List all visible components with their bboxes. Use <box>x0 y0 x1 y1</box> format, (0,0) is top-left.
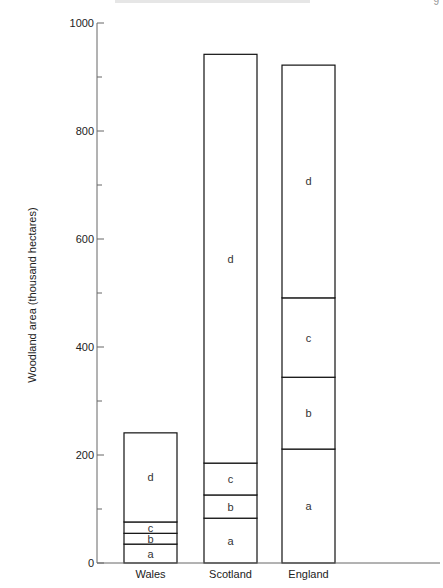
y-tick-label: 400 <box>76 341 94 353</box>
y-axis: 02004006008001000 <box>70 17 104 569</box>
segment-label: a <box>147 548 154 560</box>
segment-label: b <box>227 501 233 513</box>
bars: abcdabcdabcd <box>124 54 335 563</box>
segment-label: b <box>147 533 153 545</box>
segment-label: c <box>148 522 154 534</box>
category-label: Wales <box>135 568 166 580</box>
segment-label: d <box>305 175 311 187</box>
y-tick-label: 1000 <box>70 17 94 29</box>
stacked-bar-chart: 02004006008001000 abcdabcdabcd WalesScot… <box>0 0 443 588</box>
y-tick-label: 0 <box>88 557 94 569</box>
y-tick-label: 200 <box>76 449 94 461</box>
y-tick-label: 600 <box>76 233 94 245</box>
y-axis-label: Woodland area (thousand hectares) <box>26 207 38 382</box>
segment-label: d <box>147 471 153 483</box>
x-axis: WalesScotlandEngland <box>97 563 440 580</box>
segment-label: c <box>228 473 234 485</box>
segment-label: a <box>305 500 312 512</box>
segment-label: d <box>227 253 233 265</box>
category-label: Scotland <box>209 568 252 580</box>
y-tick-label: 800 <box>76 125 94 137</box>
segment-label: c <box>306 332 312 344</box>
bar-england: abcd <box>282 65 335 563</box>
category-label: England <box>288 568 328 580</box>
segment-label: b <box>305 407 311 419</box>
segment-label: a <box>227 535 234 547</box>
bar-scotland: abcd <box>204 54 257 563</box>
bar-wales: abcd <box>124 433 177 563</box>
